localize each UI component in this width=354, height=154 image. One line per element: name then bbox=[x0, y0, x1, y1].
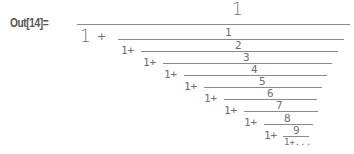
fraction-bar-8 bbox=[264, 124, 313, 125]
fraction-bar-2 bbox=[141, 51, 338, 52]
fraction-bar-5 bbox=[204, 87, 322, 88]
level-5-numerator: 5 bbox=[259, 76, 266, 87]
fraction-bar-7 bbox=[244, 111, 318, 112]
fraction-bar-6 bbox=[224, 99, 317, 100]
level-1-prefix: 1+ bbox=[121, 45, 134, 56]
output-label: Out[14]= bbox=[10, 16, 48, 30]
level-6-prefix: 1+ bbox=[224, 105, 237, 116]
level-1-numerator: 1 bbox=[225, 27, 232, 38]
level-7-prefix: 1+ bbox=[244, 117, 257, 128]
fraction-bar-4 bbox=[184, 75, 327, 76]
level-3-prefix: 1+ bbox=[164, 69, 177, 80]
level-4-prefix: 1+ bbox=[184, 81, 197, 92]
level-2-numerator: 2 bbox=[235, 40, 242, 51]
fraction-bar-main bbox=[77, 24, 350, 25]
level-2-prefix: 1+ bbox=[143, 57, 156, 68]
level-3-numerator: 3 bbox=[243, 52, 250, 63]
level-8-numerator: 8 bbox=[284, 113, 291, 124]
top-plus: + bbox=[97, 31, 106, 42]
level-4-numerator: 4 bbox=[251, 64, 258, 75]
fraction-bar-1 bbox=[118, 39, 344, 40]
top-numerator: 1 bbox=[232, 1, 243, 18]
level-6-numerator: 6 bbox=[267, 88, 274, 99]
tail-denominator: 1+... bbox=[284, 138, 311, 147]
fraction-bar-3 bbox=[163, 63, 332, 64]
level-7-numerator: 7 bbox=[276, 100, 283, 111]
level-5-prefix: 1+ bbox=[204, 93, 217, 104]
level-8-prefix: 1+ bbox=[264, 130, 277, 141]
level-9-numerator: 9 bbox=[293, 125, 300, 136]
top-denominator-one: 1 bbox=[80, 28, 91, 45]
